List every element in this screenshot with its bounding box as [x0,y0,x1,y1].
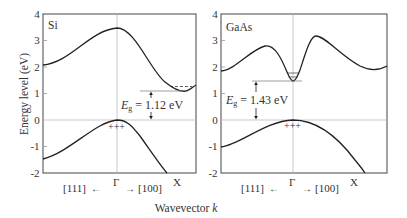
si-valence-band [43,120,167,173]
svg-text:2: 2 [34,61,40,73]
gaas-arrow-left-icon: ← [269,183,279,194]
gaas-holes: +++ [284,120,301,131]
svg-text:1: 1 [34,87,40,99]
gaas-title: GaAs [226,21,253,33]
gaas-x-left-dir: [111] [241,182,264,194]
si-gap-label: Eg = 1.12 eV [120,98,183,113]
gaas-conduction-band [221,36,387,81]
si-x-point: X [173,176,181,188]
si-x-gamma: Γ [113,176,119,188]
svg-text:0: 0 [212,114,218,126]
gaas-y-tick-labels: 4 3 2 1 0 -1 -2 [208,8,218,179]
si-gap-arrow-down-icon [149,116,153,120]
svg-text:4: 4 [212,8,218,20]
svg-text:3: 3 [212,34,218,46]
gaas-panel: Eg = 1.43 eV +++ GaAs [111] ← Γ → [100] … [221,14,387,194]
si-panel: Eg = 1.12 eV +++ Si [111] ← Γ → [100] X [43,14,196,194]
svg-text:3: 3 [34,34,40,46]
si-arrow-right-icon: → [125,183,135,194]
si-x-right-dir: [100] [138,182,162,194]
gaas-x-right-dir: [100] [315,182,339,194]
si-x-left-dir: [111] [63,182,86,194]
svg-text:4: 4 [34,8,40,20]
gaas-x-point: X [350,176,358,188]
si-y-ticks [43,41,47,147]
si-conduction-band [43,28,196,91]
si-title: Si [48,19,58,31]
svg-text:-2: -2 [208,167,217,179]
svg-text:-1: -1 [30,140,39,152]
gaas-gap-arrow-down-icon [254,116,258,120]
svg-text:-1: -1 [208,140,217,152]
band-structure-figure: Eg = 1.12 eV +++ Si [111] ← Γ → [100] X … [0,0,407,218]
gaas-arrow-right-icon: → [302,183,312,194]
gaas-gap-label: Eg = 1.43 eV [225,93,288,108]
gaas-gap-arrow-up-icon [254,82,258,86]
si-y-tick-labels: 4 3 2 1 0 -1 -2 [30,8,40,179]
gaas-x-gamma: Γ [289,176,295,188]
x-axis-label: Wavevector k [155,202,219,214]
si-holes: +++ [108,121,125,132]
svg-text:0: 0 [34,114,40,126]
si-gap-arrow-up-icon [149,92,153,96]
gaas-y-ticks [221,41,225,147]
svg-text:-2: -2 [30,167,39,179]
svg-text:1: 1 [212,87,218,99]
si-plot-frame [43,14,196,173]
si-arrow-left-icon: ← [91,183,101,194]
y-axis-label: Energy level (eV) [18,53,31,135]
svg-text:2: 2 [212,61,218,73]
